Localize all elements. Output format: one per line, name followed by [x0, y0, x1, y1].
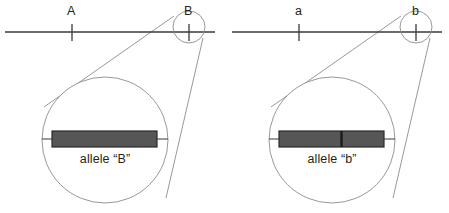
locus-label-b: b	[412, 4, 419, 18]
magnifier-cone-line-lower	[393, 38, 430, 198]
allele-magnification-figure: A B allele “B” a b allele “b”	[0, 0, 449, 213]
locus-label-a: A	[67, 4, 76, 18]
dominant-allele-panel	[5, 11, 215, 203]
allele-caption: allele “B”	[0, 152, 210, 166]
allele-caption: allele “b”	[227, 152, 437, 166]
recessive-allele-panel	[232, 11, 442, 203]
allele-bar	[279, 131, 384, 147]
locus-label-a: a	[295, 4, 302, 18]
figure-canvas	[0, 0, 449, 213]
allele-bar	[52, 131, 157, 147]
locus-label-b: B	[184, 4, 193, 18]
magnifier-cone-line-lower	[166, 38, 203, 198]
